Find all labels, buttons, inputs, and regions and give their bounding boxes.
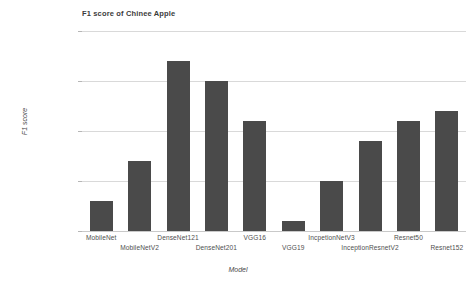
- x-axis-tick-label: IncpetionNetV3: [308, 234, 355, 241]
- x-axis-tick-label: DenseNet121: [157, 234, 198, 241]
- x-axis-tick-label: VGG19: [282, 244, 305, 251]
- gridline: [82, 31, 466, 32]
- x-axis-tick-label: VGG16: [244, 234, 267, 241]
- chart-title: F1 score of Chinee Apple: [82, 9, 175, 18]
- plot-area: 0.750.80.850.90.95: [82, 31, 466, 231]
- y-axis-tick-mark: [78, 31, 82, 32]
- bar: [128, 161, 151, 231]
- y-axis-tick-mark: [78, 81, 82, 82]
- bar: [205, 81, 228, 231]
- x-axis-tick-label: DenseNet201: [196, 244, 237, 251]
- x-axis-tick-label: Resnet152: [430, 244, 463, 251]
- bar: [282, 221, 305, 231]
- x-axis-label: Model: [0, 266, 476, 273]
- x-axis-tick-label: MobileNetV2: [120, 244, 159, 251]
- x-axis-tick-label: Resnet50: [394, 234, 423, 241]
- y-axis-tick-mark: [78, 181, 82, 182]
- y-axis-label: F1 score: [21, 92, 28, 152]
- bar: [167, 61, 190, 231]
- bar: [243, 121, 266, 231]
- bar: [320, 181, 343, 231]
- x-axis-tick-label: MobileNet: [86, 234, 117, 241]
- y-axis-tick-mark: [78, 131, 82, 132]
- bar: [90, 201, 113, 231]
- y-axis-tick-mark: [78, 231, 82, 232]
- bar: [397, 121, 420, 231]
- bar: [435, 111, 458, 231]
- gridline: [82, 81, 466, 82]
- bar-chart: F1 score of Chinee Apple F1 score 0.750.…: [0, 0, 476, 288]
- x-axis-tick-label: InceptionResnetV2: [341, 244, 398, 251]
- bar: [359, 141, 382, 231]
